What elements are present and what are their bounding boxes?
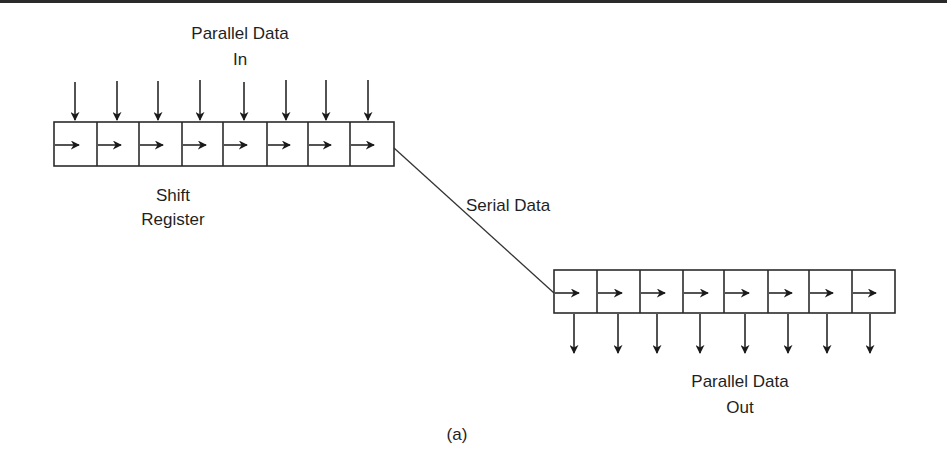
- parallel-data-out-label: Parallel Data Out: [670, 370, 810, 420]
- figure-caption: (a): [427, 423, 487, 447]
- input-shift-register: [54, 122, 394, 166]
- serial-data-label: Serial Data: [466, 194, 576, 218]
- output-shift-register: [554, 270, 895, 313]
- parallel-data-in-label: Parallel Data In: [170, 22, 310, 72]
- parallel-input-arrows: [75, 80, 368, 120]
- shift-register-label: Shift Register: [113, 184, 233, 232]
- serial-data-line: [394, 148, 554, 293]
- parallel-output-arrows: [574, 314, 870, 353]
